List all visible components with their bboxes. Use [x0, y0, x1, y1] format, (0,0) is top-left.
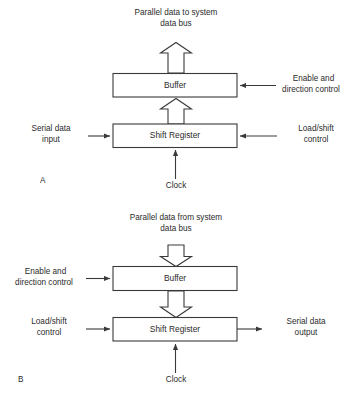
panel-a-serial-data-input-label-line1: Serial data [14, 124, 88, 135]
panel-b-serial-data-output-label-line1: Serial data [271, 317, 341, 328]
panel-a-parallel-bus-label-line2: data bus [96, 19, 256, 30]
panel-a-serial-data-input-label-line2: input [14, 135, 88, 146]
panel-b-letter: B [18, 375, 23, 384]
panel-a-enable-direction-label-line2: direction control [272, 85, 350, 96]
panel-a-shift-to-buffer-block-arrow-icon [161, 99, 192, 125]
panel-a-parallel-bus-block-arrow-icon [161, 43, 192, 74]
panel-b-shift-register-label: Shift Register [113, 324, 237, 334]
panel-a-letter: A [40, 176, 45, 185]
panel-a-load-shift-control-label-line1: Load/shift [285, 124, 347, 135]
panel-a-enable-direction-label-line1: Enable and [277, 74, 350, 85]
panel-b-load-shift-control-label-line2: control [16, 328, 82, 339]
panel-b-buffer-to-shift-block-arrow-icon [161, 291, 192, 318]
panel-a-parallel-bus-label-line1: Parallel data to system [96, 8, 256, 19]
diagram-canvas [0, 0, 350, 402]
panel-b-buffer-label: Buffer [113, 273, 237, 283]
panel-a-shift-register-label: Shift Register [113, 130, 237, 140]
panel-b-parallel-bus-label-line1: Parallel data from system [88, 213, 264, 224]
panel-b-parallel-bus-label-line2: data bus [88, 224, 264, 235]
panel-a-clock-label: Clock [146, 181, 206, 192]
panel-b-parallel-bus-block-arrow-icon [161, 245, 192, 267]
panel-a-load-shift-control-label-line2: control [285, 135, 347, 146]
panel-b-enable-direction-label-line2: direction control [4, 278, 84, 289]
panel-b-serial-data-output-label-line2: output [271, 328, 341, 339]
panel-b-enable-direction-label-line1: Enable and [8, 267, 83, 278]
panel-a-buffer-label: Buffer [113, 80, 237, 90]
panel-b-load-shift-control-label-line1: Load/shift [16, 317, 82, 328]
panel-b-clock-label: Clock [146, 375, 206, 386]
block-diagram-figure: Parallel data to system data bus Buffer … [0, 0, 350, 402]
